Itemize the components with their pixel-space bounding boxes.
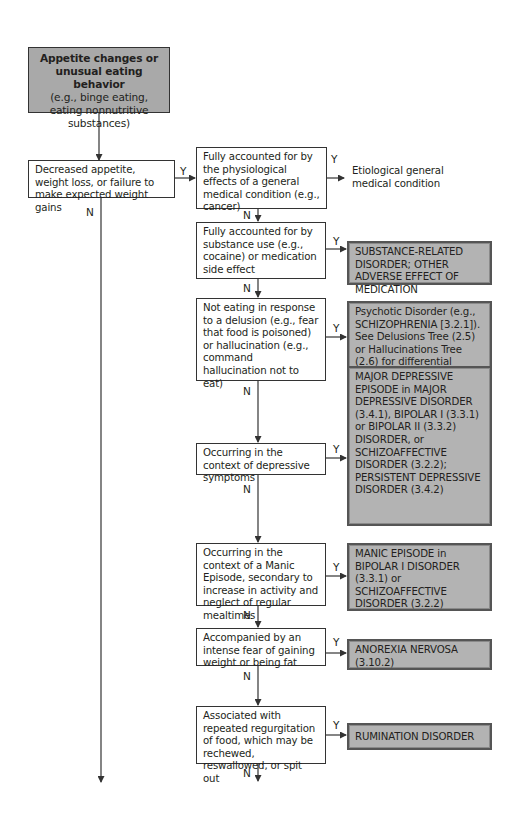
yes-label: Y	[333, 562, 339, 573]
decision-manic-episode: Occurring in the context of a Manic Epis…	[196, 543, 326, 606]
start-title: Appetite changes or unusual eating behav…	[33, 52, 165, 91]
no-label: N	[243, 210, 251, 221]
decision-decreased-appetite: Decreased appetite, weight loss, or fail…	[28, 160, 175, 198]
no-label: N	[243, 768, 251, 779]
outcome-text: MAJOR DEPRESSIVE EPISODE in MAJOR DEPRES…	[355, 371, 480, 495]
yes-label: Y	[333, 236, 339, 247]
decision-text: Accompanied by an intense fear of gainin…	[203, 632, 315, 668]
outcome-text: RUMINATION DISORDER	[355, 731, 474, 742]
outcome-anorexia-nervosa: ANOREXIA NERVOSA (3.10.2)	[347, 639, 492, 670]
yes-label: Y	[333, 637, 339, 648]
decision-regurgitation: Associated with repeated regurgitation o…	[196, 706, 326, 764]
no-label: N	[86, 207, 94, 218]
outcome-substance-related-disorder: SUBSTANCE-RELATED DISORDER; OTHER ADVERS…	[347, 241, 492, 285]
no-label: N	[243, 671, 251, 682]
no-label: N	[243, 283, 251, 294]
outcome-manic-episode: MANIC EPISODE in BIPOLAR I DISORDER (3.3…	[347, 543, 492, 611]
decision-substance-use: Fully accounted for by substance use (e.…	[196, 222, 326, 279]
outcome-psychotic-disorder: Psychotic Disorder (e.g., SCHIZOPHRENIA …	[347, 301, 492, 369]
yes-label: Y	[331, 154, 337, 165]
no-label: N	[243, 484, 251, 495]
decision-text: Not eating in response to a delusion (e.…	[203, 302, 318, 389]
yes-label: Y	[180, 166, 186, 177]
yes-label: Y	[333, 444, 339, 455]
decision-depressive-symptoms: Occurring in the context of depressive s…	[196, 443, 326, 475]
yes-label: Y	[333, 323, 339, 334]
outcome-etiological-general-medical-condition: Etiological general medical condition	[352, 165, 472, 190]
decision-delusion-hallucination: Not eating in response to a delusion (e.…	[196, 298, 326, 381]
decision-text: Fully accounted for by the physiological…	[203, 151, 320, 212]
start-subtitle: (e.g., binge eating, eating nonnutritive…	[50, 91, 149, 129]
outcome-rumination-disorder: RUMINATION DISORDER	[347, 723, 492, 750]
decision-text: Associated with repeated regurgitation o…	[203, 710, 315, 784]
no-label: N	[243, 610, 251, 621]
outcome-text: ANOREXIA NERVOSA (3.10.2)	[355, 644, 458, 668]
decision-text: Fully accounted for by substance use (e.…	[203, 226, 317, 275]
no-label: N	[243, 386, 251, 397]
start-node: Appetite changes or unusual eating behav…	[28, 47, 170, 113]
decision-fear-of-weight-gain: Accompanied by an intense fear of gainin…	[196, 628, 326, 666]
outcome-major-depressive-episode: MAJOR DEPRESSIVE EPISODE in MAJOR DEPRES…	[347, 366, 492, 526]
yes-label: Y	[333, 720, 339, 731]
decision-general-medical-condition: Fully accounted for by the physiological…	[196, 147, 327, 209]
outcome-text: MANIC EPISODE in BIPOLAR I DISORDER (3.3…	[355, 548, 460, 609]
